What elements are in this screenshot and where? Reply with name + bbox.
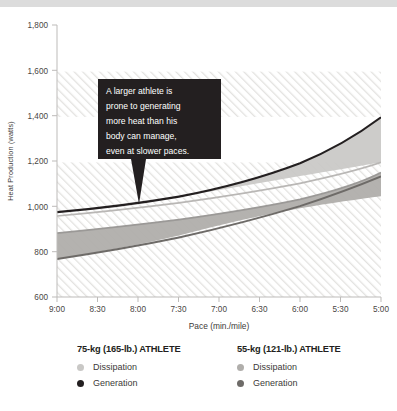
y-tick-label-1200: 1,200 bbox=[28, 157, 49, 166]
x-tick-label-600: 6:00 bbox=[292, 305, 308, 314]
legend-item-55kg-dissipation[interactable]: Dissipation bbox=[237, 361, 340, 373]
legend-label-55kg-dissipation: Dissipation bbox=[253, 362, 297, 372]
legend-dot-75kg-dissipation bbox=[77, 364, 84, 371]
legend-label-75kg-generation: Generation bbox=[93, 378, 138, 388]
chart-container: 1,800 1,600 1,400 1,200 1,000 800 600 He… bbox=[0, 7, 397, 340]
legend-item-75kg-dissipation[interactable]: Dissipation bbox=[77, 361, 180, 373]
x-tick-label-830: 8:30 bbox=[90, 305, 106, 314]
legend-label-55kg-generation: Generation bbox=[253, 378, 298, 388]
legend-column-55kg: 55-kg (121-lb.) ATHLETE Dissipation Gene… bbox=[237, 344, 340, 393]
y-tick-label-1800: 1,800 bbox=[28, 21, 49, 30]
x-tick-label-730: 7:30 bbox=[171, 305, 187, 314]
x-tick-label-630: 6:30 bbox=[252, 305, 268, 314]
legend-heading-55kg: 55-kg (121-lb.) ATHLETE bbox=[237, 344, 340, 354]
y-tick-label-600: 600 bbox=[34, 293, 48, 302]
y-ticks bbox=[52, 25, 57, 297]
chart-legend: 75-kg (165-lb.) ATHLETE Dissipation Gene… bbox=[0, 344, 397, 411]
y-tick-label-800: 800 bbox=[34, 248, 48, 257]
x-tick-label-900: 9:00 bbox=[49, 305, 65, 314]
legend-item-55kg-generation[interactable]: Generation bbox=[237, 377, 340, 389]
x-tick-label-700: 7:00 bbox=[211, 305, 227, 314]
legend-label-75kg-dissipation: Dissipation bbox=[93, 362, 137, 372]
legend-item-75kg-generation[interactable]: Generation bbox=[77, 377, 180, 389]
callout-line-4: body can manage, bbox=[106, 131, 177, 141]
legend-dot-55kg-generation bbox=[237, 380, 244, 387]
callout-line-1: A larger athlete is bbox=[106, 86, 172, 96]
callout-line-2: prone to generating bbox=[106, 101, 181, 111]
x-tick-label-800: 8:00 bbox=[130, 305, 146, 314]
x-ticks bbox=[57, 297, 381, 302]
y-tick-label-1400: 1,400 bbox=[28, 112, 49, 121]
heat-production-chart: 1,800 1,600 1,400 1,200 1,000 800 600 He… bbox=[0, 7, 397, 340]
legend-dot-55kg-dissipation bbox=[237, 364, 244, 371]
y-tick-label-1600: 1,600 bbox=[28, 67, 49, 76]
callout-line-3: more heat than his bbox=[106, 116, 177, 126]
y-axis-title: Heat Production (watts) bbox=[6, 121, 15, 201]
top-banner-bar bbox=[0, 0, 397, 7]
x-tick-label-530: 5:30 bbox=[333, 305, 349, 314]
legend-heading-75kg: 75-kg (165-lb.) ATHLETE bbox=[77, 344, 180, 354]
callout-line-5: even at slower paces. bbox=[106, 146, 189, 156]
legend-column-75kg: 75-kg (165-lb.) ATHLETE Dissipation Gene… bbox=[77, 344, 180, 393]
x-tick-label-500: 5:00 bbox=[373, 305, 389, 314]
x-axis-title: Pace (min./mile) bbox=[189, 321, 250, 331]
y-tick-label-1000: 1,000 bbox=[28, 203, 49, 212]
legend-dot-75kg-generation bbox=[77, 380, 84, 387]
